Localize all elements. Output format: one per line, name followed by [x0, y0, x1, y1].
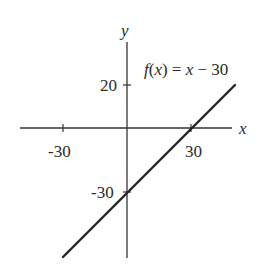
x-tick-label-30: 30 — [185, 142, 202, 161]
y-tick-label-20: 20 — [100, 76, 117, 95]
y-tick-label-neg30: -30 — [91, 183, 114, 202]
function-label: f(x) = x − 30 — [144, 60, 228, 79]
x-tick-label-neg30: -30 — [48, 142, 71, 161]
y-axis-label: y — [119, 21, 129, 40]
function-graph: y x -30 30 20 -30 f(x) = x − 30 — [0, 0, 275, 269]
x-axis-label: x — [238, 119, 247, 138]
function-line — [63, 85, 235, 257]
